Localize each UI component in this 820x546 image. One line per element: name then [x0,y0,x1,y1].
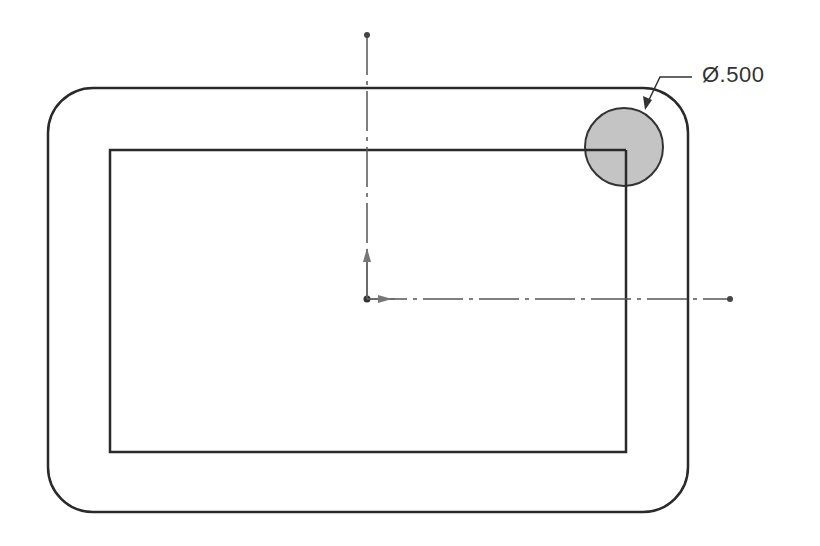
x-axis-arrow-icon [378,295,392,303]
hole-circle [585,108,663,186]
cad-drawing [0,0,820,546]
dimension-leader-line [647,77,692,104]
diameter-dimension-label: Ø.500 [702,62,764,88]
horizontal-axis-endpoint [727,296,733,302]
y-axis-arrow-icon [363,248,371,262]
vertical-axis-endpoint [364,32,370,38]
